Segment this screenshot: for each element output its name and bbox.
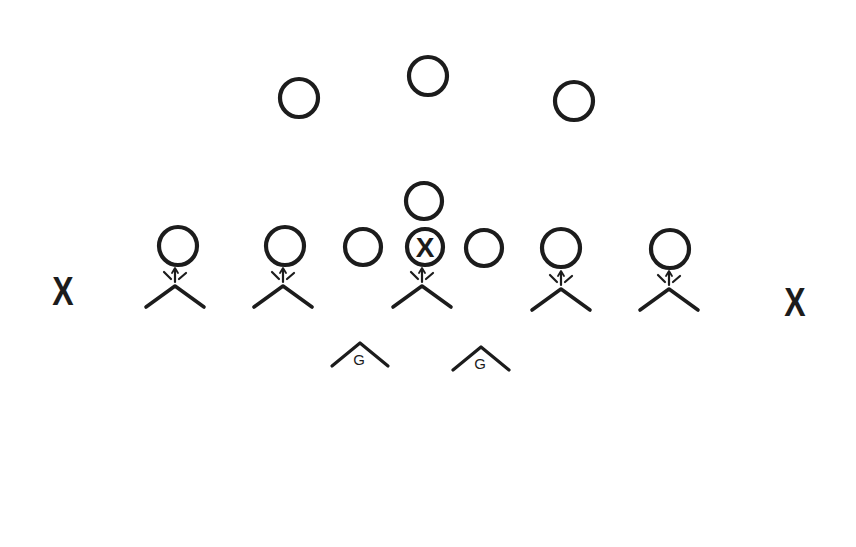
guard-g-right: G <box>453 347 509 372</box>
circle-icon <box>406 183 442 219</box>
lineman-chevron-def-left-tackle <box>254 286 312 307</box>
formation-diagram: X GG XX <box>0 0 856 547</box>
circle-icon <box>542 229 580 267</box>
player-right-tackle <box>542 229 580 267</box>
lineman-chevron-def-right-tackle <box>532 289 590 310</box>
lineman-chevron-def-right-end <box>640 289 698 310</box>
offense-players: X <box>159 57 689 268</box>
circle-icon <box>466 230 502 266</box>
contact-mark-icon <box>658 271 680 285</box>
player-back-center <box>409 57 447 95</box>
player-back-left <box>280 79 318 117</box>
circle-icon <box>345 229 381 265</box>
x-mark-icon: X <box>416 232 435 263</box>
defense-players <box>146 286 698 310</box>
player-back-right <box>555 82 593 120</box>
player-quarterback <box>406 183 442 219</box>
circle-icon <box>409 57 447 95</box>
guard-players: GG <box>332 343 509 372</box>
circle-icon <box>266 227 304 265</box>
guard-g-left: G <box>332 343 388 368</box>
contact-mark-icon <box>164 268 186 282</box>
player-right-guard <box>466 230 502 266</box>
lineman-chevron-def-nose <box>393 286 451 307</box>
circle-icon <box>280 79 318 117</box>
player-center: X <box>407 229 443 265</box>
contact-mark-icon <box>411 268 433 282</box>
player-left-guard <box>345 229 381 265</box>
player-left-end <box>159 227 197 265</box>
x-mark-icon: X <box>784 280 805 325</box>
contact-mark-icon <box>550 271 572 285</box>
circle-icon <box>651 230 689 268</box>
contact-mark-icon <box>272 268 294 282</box>
player-left-tackle <box>266 227 304 265</box>
guard-label: G <box>474 355 486 372</box>
guard-label: G <box>353 351 365 368</box>
x-mark-icon: X <box>52 269 73 314</box>
circle-icon <box>555 82 593 120</box>
contact-marks <box>164 268 680 285</box>
player-right-end <box>651 230 689 268</box>
circle-icon <box>159 227 197 265</box>
lineman-chevron-def-left-end <box>146 286 204 307</box>
